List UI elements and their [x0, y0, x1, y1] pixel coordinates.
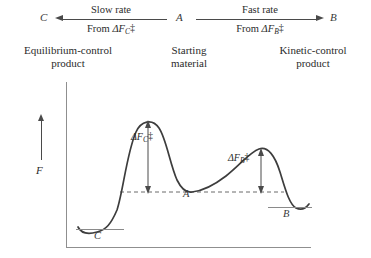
barrier-c-label: ΔFC‡ — [131, 130, 153, 144]
fast-delta-f-dagger: ‡ — [279, 22, 284, 33]
fast-rate-arrow-shaft — [196, 19, 316, 20]
slow-from-text: From — [87, 23, 112, 34]
slow-delta-f: ΔF — [112, 23, 125, 34]
caption-kinetic-control: Kinetic-control product — [258, 44, 368, 70]
fast-delta-f: ΔF — [262, 23, 275, 34]
state-label-c: C — [94, 230, 101, 241]
slow-delta-f-dagger: ‡ — [130, 22, 135, 33]
energy-curve-path — [78, 122, 309, 234]
fast-rate-label: Fast rate — [196, 4, 324, 15]
caption-equilibrium-control-line1: Equilibrium-control — [6, 44, 130, 57]
scheme-species-c: C — [40, 11, 47, 23]
scheme-species-a: A — [176, 11, 183, 23]
barrier-b-label: ΔFB‡ — [228, 151, 250, 165]
barrier-b-arrowhead-down-icon — [258, 186, 264, 194]
slow-rate-barrier-label: From ΔFC‡ — [55, 22, 167, 36]
energy-profile-plot: F C A B ΔFC‡ ΔFB‡ — [0, 72, 371, 258]
caption-kinetic-control-line2: product — [258, 57, 368, 70]
arrow-left-icon — [55, 15, 63, 21]
state-label-a: A — [183, 188, 189, 199]
slow-rate-arrow-shaft — [63, 19, 167, 20]
caption-starting-material: Starting material — [158, 44, 220, 70]
state-label-b: B — [283, 208, 289, 219]
b-well-baseline — [268, 207, 312, 208]
barrier-c-arrowhead-down-icon — [145, 186, 151, 194]
caption-kinetic-control-line1: Kinetic-control — [258, 44, 368, 57]
barrier-c-dagger: ‡ — [148, 130, 153, 141]
caption-equilibrium-control-line2: product — [6, 57, 130, 70]
slow-rate-label: Slow rate — [55, 4, 167, 15]
barrier-c-delta: ΔF — [131, 131, 143, 142]
caption-equilibrium-control: Equilibrium-control product — [6, 44, 130, 70]
slow-rate-arrow-group: Slow rate From ΔFC‡ — [55, 0, 167, 40]
caption-starting-material-line2: material — [158, 57, 220, 70]
fast-from-text: From — [236, 23, 261, 34]
reaction-coordinate-figure: C A B Slow rate From ΔFC‡ Fast rate From… — [0, 0, 371, 258]
caption-starting-material-line1: Starting — [158, 44, 220, 57]
energy-curve-svg — [0, 72, 371, 258]
arrow-right-icon — [316, 15, 324, 21]
reaction-scheme: C A B Slow rate From ΔFC‡ Fast rate From… — [0, 0, 371, 72]
barrier-b-dagger: ‡ — [245, 151, 250, 162]
barrier-b-delta: ΔF — [228, 152, 240, 163]
fast-rate-barrier-label: From ΔFB‡ — [196, 22, 324, 36]
fast-rate-arrow-group: Fast rate From ΔFB‡ — [196, 0, 324, 40]
scheme-species-b: B — [330, 11, 337, 23]
